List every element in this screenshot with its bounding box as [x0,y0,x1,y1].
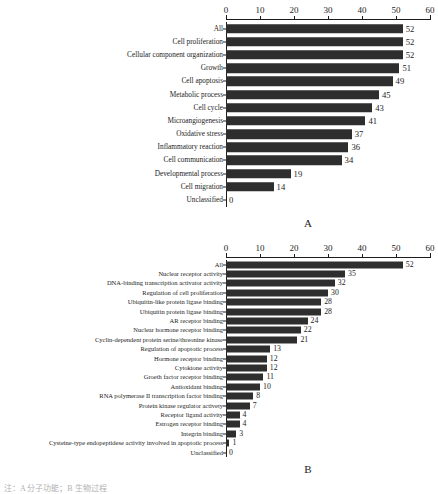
bar[interactable] [226,182,274,192]
bar-value-label: 28 [321,307,332,315]
bar[interactable] [226,103,372,113]
bar-category-label: Cytokione activity [175,364,226,372]
bar-row[interactable]: Integrin binding3 [0,429,438,438]
bar-row[interactable]: Cell cycle43 [0,101,438,114]
bar-row[interactable]: Cell proliferation52 [0,35,438,48]
bar-row[interactable]: Receptor ligand activity4 [0,410,438,419]
bar-row[interactable]: AR receptor binding24 [0,316,438,325]
bar-row[interactable]: Ubiquitin-like protein ligase binding28 [0,298,438,307]
figure-root: 0102030405060All52Cell proliferation52Ce… [0,0,438,494]
bar-category-label: Cell apoptosis [181,78,226,86]
x-axis-tick [328,16,329,20]
bar[interactable] [226,50,403,60]
bar-category-label: DNA-binding transcription activator acti… [107,280,226,288]
bar[interactable] [226,156,342,166]
x-axis-tick-label: 60 [426,6,435,15]
bar[interactable] [226,280,335,287]
bar-row[interactable]: Regulation of apoptotic process13 [0,345,438,354]
bar-row[interactable]: Cell apoptosis49 [0,75,438,88]
bar-row[interactable]: Protein kinase regulator activety7 [0,401,438,410]
bar-rows: All52Nuclear receptor activity35DNA-bind… [0,260,438,457]
bar-row[interactable]: Estrogen receptor binding4 [0,420,438,429]
x-axis-tick [362,16,363,20]
bar-row[interactable]: Antioxidant binding10 [0,382,438,391]
bar-row[interactable]: Cytokione activity12 [0,363,438,372]
bar[interactable] [226,37,403,47]
bar-row[interactable]: Cyclin-dependent protein serine/threonin… [0,335,438,344]
bar-category-label: Hormone receptor binding [154,355,226,363]
bar-row[interactable]: Inflammatory reaction36 [0,141,438,154]
bar[interactable] [226,346,270,353]
bar-row[interactable]: Oxidative stress37 [0,128,438,141]
bar-row[interactable]: All52 [0,22,438,35]
bar[interactable] [226,63,399,73]
bar[interactable] [226,261,403,268]
bar[interactable] [226,374,263,381]
bar-category-label: Microangiogenesis [167,117,226,125]
bar[interactable] [226,90,379,100]
bar-row[interactable]: Groeth factor receptor binding11 [0,373,438,382]
bar-row[interactable]: Microangiogenesis41 [0,114,438,127]
bar-row[interactable]: Cysteine-type endopeptidese activity inv… [0,438,438,447]
bar-value-label: 52 [403,51,415,59]
figure-caption-clip: 注：A 分子功能；B 生物过程 [0,483,438,494]
bar[interactable] [226,364,267,371]
bar-category-label: Nuclear receptor activity [158,270,226,278]
bar[interactable] [226,129,352,139]
bar[interactable] [226,169,291,179]
bar-row[interactable]: RNA polymerase II transcription factor b… [0,391,438,400]
bar[interactable] [226,402,250,409]
bar-category-label: Antioxidant binding [170,383,226,391]
bar[interactable] [226,336,297,343]
bar-category-label: Cyclin-dependent protein serine/threonin… [95,336,226,344]
panel-b: 0102030405060All52Nuclear receptor activ… [0,240,438,480]
bar-row[interactable]: Developmental process19 [0,167,438,180]
bar[interactable] [226,271,345,278]
bar-row[interactable]: Cell migration14 [0,180,438,193]
bar[interactable] [226,421,240,428]
bar-row[interactable]: Unclassified0 [0,448,438,457]
bar-row[interactable]: Growth51 [0,62,438,75]
bar-value-label: 24 [308,317,319,325]
bar-category-label: Developmental process [155,170,226,178]
bar-row[interactable]: Unclassified0 [0,193,438,206]
bar[interactable] [226,77,393,87]
bar[interactable] [226,318,308,325]
bar[interactable] [226,299,321,306]
bar[interactable] [226,393,253,400]
x-axis-tick-label: 60 [426,244,435,253]
x-axis-tick [362,254,363,258]
bar[interactable] [226,383,260,390]
bar-row[interactable]: Hormone receptor binding12 [0,354,438,363]
bar[interactable] [226,327,301,334]
bar-row[interactable]: Cellular component organization52 [0,48,438,61]
bar[interactable] [226,430,236,437]
bar-value-label: 12 [267,354,278,362]
bar-row[interactable]: All52 [0,260,438,269]
x-axis-tick [294,16,295,20]
bar-category-label: Nuclear hormone receptor binding [133,327,226,335]
bar[interactable] [226,308,321,315]
bar-row[interactable]: Nuclear receptor activity35 [0,269,438,278]
x-axis-tick [260,16,261,20]
bar-row[interactable]: Regulation of cell proliferation30 [0,288,438,297]
bar[interactable] [226,289,328,296]
bar-row[interactable]: Ubiquitin protein ligase binding28 [0,307,438,316]
bar[interactable] [226,116,365,126]
bar-value-label: 12 [267,364,278,372]
x-axis-tick [430,15,431,20]
x-axis-tick-label: 40 [358,244,367,253]
bar-value-label: 13 [270,345,281,353]
bar[interactable] [226,411,240,418]
bar[interactable] [226,143,348,153]
bar[interactable] [226,24,403,34]
bar-category-label: Estrogen receptor binding [155,421,226,429]
bar-row[interactable]: Nuclear hormone receptor binding22 [0,326,438,335]
bar-category-label: Ubiquitin-like protein ligase binding [128,298,226,306]
bar-value-label: 30 [328,289,339,297]
bar[interactable] [226,355,267,362]
bar-row[interactable]: Metabolic process45 [0,88,438,101]
bar-row[interactable]: Cell communication34 [0,154,438,167]
x-axis-tick [226,253,227,258]
bar-row[interactable]: DNA-binding transcription activator acti… [0,279,438,288]
